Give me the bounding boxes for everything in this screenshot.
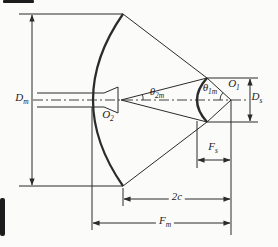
label-main-focal: Fm <box>156 215 174 229</box>
scan-artifact-left <box>0 198 5 236</box>
cassegrain-diagram <box>0 0 278 247</box>
label-virtual-focus: O1 <box>228 78 240 92</box>
label-main-diameter: Dm <box>15 92 28 106</box>
label-feed-half-angle: θ2m <box>150 86 165 100</box>
label-feed-point: O2 <box>102 109 114 123</box>
label-sub-focal: Fs <box>208 141 218 155</box>
theta1m-angle-arc <box>220 93 223 100</box>
label-foci-distance: 2c <box>169 191 185 205</box>
label-sub-half-angle: θ1m <box>203 82 218 96</box>
scan-artifact-top <box>3 0 34 3</box>
figure-cassegrain-antenna: Dm O2 θ2m θ1m O1 Ds Fs 2c Fm <box>0 0 278 247</box>
theta2m-angle-arc <box>142 95 143 100</box>
feed-ray-lower <box>121 100 207 122</box>
label-sub-diameter: Ds <box>252 91 263 105</box>
